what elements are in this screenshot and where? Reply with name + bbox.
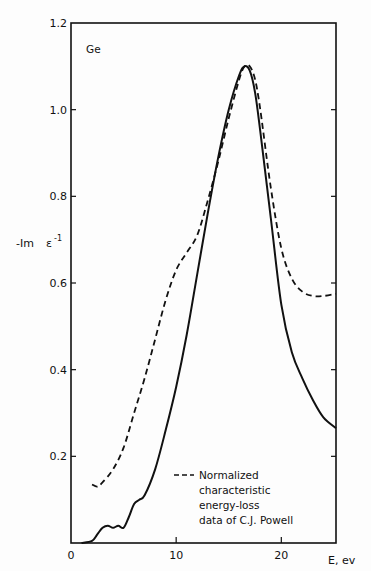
y-axis-title-im: -Im (16, 237, 34, 250)
legend-line-1: Normalized (199, 469, 259, 481)
y-tick-label: 0.6 (50, 277, 68, 290)
y-tick-label: 1.0 (50, 104, 68, 117)
x-axis-title: E, ev (328, 554, 356, 567)
legend: Normalized characteristic energy-loss da… (174, 469, 293, 526)
y-axis-title-epsilon: ε (46, 237, 52, 250)
chart: 01020 0.20.40.60.81.01.2 Ge -Im ε -1 E, … (0, 0, 371, 571)
x-tick-label: 10 (169, 549, 183, 562)
series-line-experimental (92, 65, 336, 487)
y-tick-label: 0.8 (50, 190, 68, 203)
plot-frame (71, 23, 336, 543)
x-axis-title-text: E, ev (328, 554, 356, 567)
legend-line-2: characteristic (199, 484, 271, 496)
y-axis-ticks: 0.20.40.60.81.01.2 (50, 17, 337, 463)
x-tick-label: 0 (68, 549, 75, 562)
legend-line-4: data of C.J. Powell (199, 514, 293, 526)
y-axis-title: -Im ε -1 (16, 234, 62, 250)
y-tick-label: 0.4 (50, 364, 68, 377)
y-tick-label: 1.2 (50, 17, 68, 30)
annotation-ge: Ge (86, 43, 101, 55)
y-tick-label: 0.2 (50, 450, 68, 463)
x-tick-label: 20 (274, 549, 288, 562)
legend-line-3: energy-loss (199, 499, 259, 511)
x-axis-ticks: 01020 (68, 537, 289, 562)
y-axis-title-exponent: -1 (54, 234, 62, 243)
